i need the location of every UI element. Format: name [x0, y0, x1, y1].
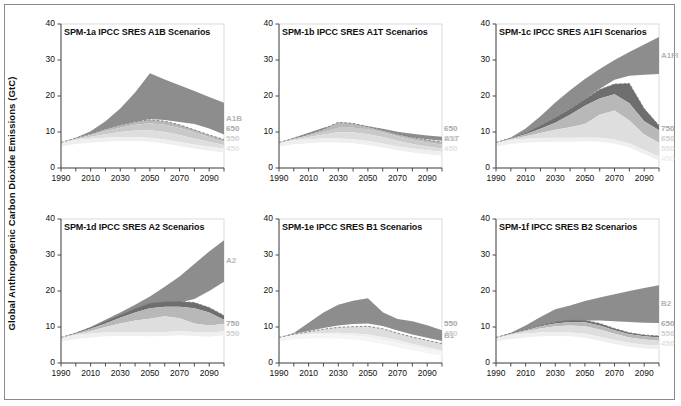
- y-tick-label: 30: [257, 249, 273, 259]
- edge-label-650: 650: [661, 319, 674, 328]
- y-tick-label: 20: [257, 90, 273, 100]
- panel-title: SPM-1d IPCC SRES A2 Scenarios: [64, 222, 204, 232]
- x-tick-label: 2090: [629, 368, 659, 378]
- y-tick-label: 10: [474, 321, 490, 331]
- edge-label-a2: A2: [226, 256, 236, 265]
- chart-panel-spm-1f: SPM-1f IPCC SRES B2 Scenarios01020304019…: [463, 205, 673, 395]
- y-axis-label-text: Global Anthropogenic Carbon Dioxide Emis…: [7, 76, 18, 330]
- x-tick-label: 2090: [194, 173, 224, 183]
- x-tick-label: 2050: [570, 173, 600, 183]
- y-tick-label: 20: [39, 285, 55, 295]
- figure-root: Global Anthropogenic Carbon Dioxide Emis…: [0, 0, 681, 406]
- y-tick-label: 10: [257, 126, 273, 136]
- y-tick-label: 40: [257, 18, 273, 28]
- edge-label-750: 750: [226, 319, 239, 328]
- x-tick-label: 2090: [629, 173, 659, 183]
- edge-label-450: 450: [661, 154, 674, 163]
- plot-area: [246, 10, 456, 200]
- panel-title: SPM-1f IPCC SRES B2 Scenarios: [499, 222, 637, 232]
- y-tick-label: 20: [474, 90, 490, 100]
- y-tick-label: 40: [257, 213, 273, 223]
- y-tick-label: 10: [39, 126, 55, 136]
- x-tick-label: 2030: [323, 173, 353, 183]
- edge-label-450: 450: [226, 144, 239, 153]
- chart-panel-spm-1e: SPM-1e IPCC SRES B1 Scenarios01020304019…: [246, 205, 456, 395]
- x-tick-label: 2070: [600, 173, 630, 183]
- x-tick-label: 2070: [383, 368, 413, 378]
- x-tick-label: 2070: [600, 368, 630, 378]
- x-tick-label: 2070: [165, 173, 195, 183]
- y-tick-label: 40: [39, 18, 55, 28]
- x-tick-label: 2070: [383, 173, 413, 183]
- x-tick-label: 2030: [540, 368, 570, 378]
- x-tick-label: 2010: [294, 368, 324, 378]
- panel-title: SPM-1e IPCC SRES B1 Scenarios: [282, 222, 422, 232]
- x-tick-label: 2090: [194, 368, 224, 378]
- y-tick-label: 40: [474, 18, 490, 28]
- x-tick-label: 2050: [135, 173, 165, 183]
- x-tick-label: 2030: [323, 368, 353, 378]
- y-tick-label: 30: [474, 249, 490, 259]
- x-tick-label: 1990: [264, 368, 294, 378]
- x-tick-label: 1990: [46, 368, 76, 378]
- panel-title: SPM-1a IPCC SRES A1B Scenarios: [64, 27, 210, 37]
- x-tick-label: 2090: [412, 173, 442, 183]
- edge-label-650: 650: [661, 134, 674, 143]
- x-tick-label: 2010: [76, 368, 106, 378]
- y-tick-label: 0: [39, 357, 55, 367]
- x-tick-label: 2030: [540, 173, 570, 183]
- y-tick-label: 30: [39, 54, 55, 64]
- panel-title: SPM-1b IPCC SRES A1T Scenarios: [282, 27, 428, 37]
- y-tick-label: 40: [474, 213, 490, 223]
- edge-label-550: 550: [444, 134, 457, 143]
- x-tick-label: 2030: [105, 368, 135, 378]
- y-tick-label: 0: [474, 357, 490, 367]
- chart-panel-spm-1d: SPM-1d IPCC SRES A2 Scenarios01020304019…: [28, 205, 238, 395]
- y-tick-label: 40: [39, 213, 55, 223]
- plot-area: [463, 205, 673, 395]
- chart-panel-spm-1b: SPM-1b IPCC SRES A1T Scenarios0102030401…: [246, 10, 456, 200]
- edge-label-450: 450: [661, 339, 674, 348]
- edge-label-750: 750: [661, 124, 674, 133]
- edge-label-450: 450: [444, 329, 457, 338]
- y-tick-label: 30: [257, 54, 273, 64]
- edge-label-650: 650: [444, 124, 457, 133]
- x-tick-label: 2050: [353, 173, 383, 183]
- y-tick-label: 0: [39, 162, 55, 172]
- x-tick-label: 1990: [46, 173, 76, 183]
- edge-label-450: 450: [444, 144, 457, 153]
- y-tick-label: 10: [39, 321, 55, 331]
- x-tick-label: 2050: [353, 368, 383, 378]
- y-tick-label: 20: [257, 285, 273, 295]
- x-tick-label: 2050: [570, 368, 600, 378]
- edge-label-550: 550: [226, 134, 239, 143]
- edge-label-b2: B2: [661, 299, 671, 308]
- chart-panel-spm-1a: SPM-1a IPCC SRES A1B Scenarios0102030401…: [28, 10, 238, 200]
- y-tick-label: 10: [474, 126, 490, 136]
- y-tick-label: 10: [257, 321, 273, 331]
- edge-label-550: 550: [444, 319, 457, 328]
- y-tick-label: 0: [257, 357, 273, 367]
- x-tick-label: 2070: [165, 368, 195, 378]
- y-axis-label: Global Anthropogenic Carbon Dioxide Emis…: [2, 0, 22, 406]
- y-tick-label: 30: [39, 249, 55, 259]
- edge-label-550: 550: [661, 329, 674, 338]
- y-tick-label: 0: [474, 162, 490, 172]
- y-tick-label: 0: [257, 162, 273, 172]
- panel-title: SPM-1c IPCC SRES A1FI Scenarios: [499, 27, 647, 37]
- x-tick-label: 2010: [76, 173, 106, 183]
- x-tick-label: 1990: [481, 368, 511, 378]
- x-tick-label: 2010: [511, 173, 541, 183]
- plot-area: [246, 205, 456, 395]
- plot-area: [28, 10, 238, 200]
- x-tick-label: 1990: [264, 173, 294, 183]
- plot-area: [28, 205, 238, 395]
- x-tick-label: 2030: [105, 173, 135, 183]
- plot-area: [463, 10, 673, 200]
- y-tick-label: 20: [474, 285, 490, 295]
- edge-label-a1fi: A1FI: [661, 51, 678, 60]
- x-tick-label: 2010: [294, 173, 324, 183]
- edge-label-a1b: A1B: [226, 114, 242, 123]
- y-tick-label: 30: [474, 54, 490, 64]
- chart-panel-spm-1c: SPM-1c IPCC SRES A1FI Scenarios010203040…: [463, 10, 673, 200]
